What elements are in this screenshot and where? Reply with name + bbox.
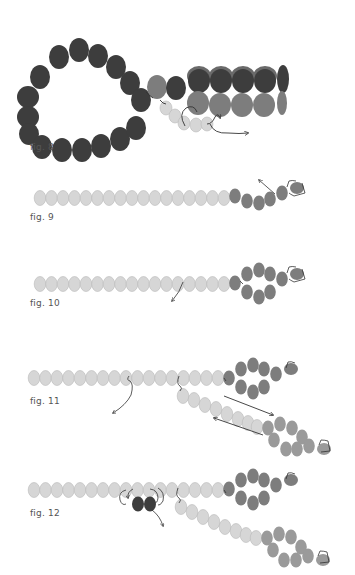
fig11-label: fig. 11: [30, 396, 60, 406]
fig10-diamond: [229, 263, 304, 305]
fig11-bottom-diamond: [262, 417, 331, 457]
fig10-diagram: [34, 263, 305, 305]
fig8-label: fig. 8: [30, 142, 54, 152]
fig12-diagram: [28, 469, 330, 568]
fig10-label: fig. 10: [30, 298, 60, 308]
fig11-top-diamond: [223, 358, 298, 400]
fig12-bottom-diamond: [261, 527, 330, 568]
fig8-diagram: [17, 38, 289, 162]
fig9-diagram: [34, 180, 305, 211]
fig9-label: fig. 9: [30, 212, 54, 222]
fig8-tube-bottom: [187, 91, 287, 117]
beading-diagram: [0, 0, 355, 575]
fig8-dark-bead: [166, 76, 186, 100]
fig10-light-row: [34, 277, 230, 292]
fig12-label: fig. 12: [30, 508, 60, 518]
fig9-light-row: [34, 191, 230, 206]
fig11-diagram: [28, 358, 331, 457]
fig12-top-diamond: [223, 469, 298, 511]
fig12-dark-pair: [132, 497, 156, 512]
fig11-light-row: [28, 371, 224, 386]
